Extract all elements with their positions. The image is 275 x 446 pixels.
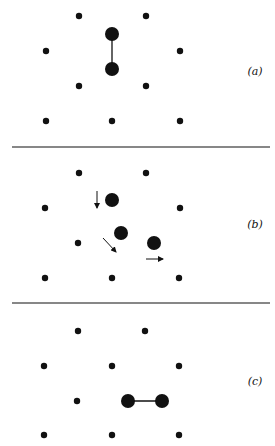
lattice-atom <box>177 118 183 124</box>
lattice-diagram: (a)(b)(c) <box>0 0 275 446</box>
lattice-atom <box>43 118 49 124</box>
panel-c: (c) <box>41 328 263 438</box>
lattice-atom <box>43 48 49 54</box>
lattice-atom <box>42 275 48 281</box>
lattice-atom <box>41 363 47 369</box>
lattice-atom <box>176 363 182 369</box>
lattice-atom <box>74 398 80 404</box>
lattice-atom <box>109 363 115 369</box>
interstitial-atom <box>105 27 119 41</box>
lattice-atom <box>109 275 115 281</box>
interstitial-atom <box>114 226 128 240</box>
panel-label: (a) <box>247 65 262 78</box>
lattice-atom <box>76 170 82 176</box>
panel-a: (a) <box>43 13 263 124</box>
interstitial-atom <box>121 394 135 408</box>
panel-separators <box>12 147 270 303</box>
motion-arrow-icon <box>103 238 116 252</box>
lattice-atom <box>143 83 149 89</box>
interstitial-atom <box>105 193 119 207</box>
panel-b: (b) <box>42 170 263 281</box>
lattice-atom <box>75 328 81 334</box>
lattice-atom <box>76 13 82 19</box>
lattice-atom <box>41 432 47 438</box>
lattice-atom <box>176 275 182 281</box>
lattice-atom <box>143 170 149 176</box>
interstitial-atom <box>155 394 169 408</box>
lattice-atom <box>75 240 81 246</box>
lattice-atom <box>177 205 183 211</box>
lattice-atom <box>42 205 48 211</box>
lattice-atom <box>143 13 149 19</box>
lattice-atom <box>177 48 183 54</box>
lattice-atom <box>109 432 115 438</box>
panel-label: (b) <box>247 218 263 231</box>
lattice-atom <box>76 83 82 89</box>
interstitial-atom <box>105 62 119 76</box>
lattice-atom <box>142 328 148 334</box>
lattice-atom <box>176 432 182 438</box>
interstitial-atom <box>147 236 161 250</box>
panel-label: (c) <box>248 375 263 388</box>
panels: (a)(b)(c) <box>41 13 263 438</box>
lattice-atom <box>109 118 115 124</box>
